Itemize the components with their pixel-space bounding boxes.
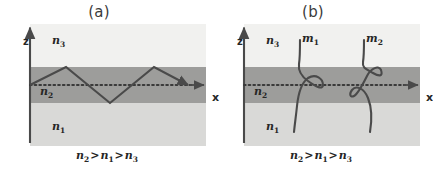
label-n1: n1 <box>52 120 65 135</box>
label-mode-m2: m2 <box>366 32 383 47</box>
panel-a-caption: n2>n1>n3 <box>0 149 214 164</box>
z-axis-label: z <box>237 36 243 47</box>
panel-b-title: (b) <box>214 3 428 21</box>
z-axis-label: z <box>23 36 29 47</box>
panel-b: (b) <box>214 0 428 170</box>
label-n3: n3 <box>266 34 279 49</box>
label-n2: n2 <box>254 85 267 100</box>
panel-a-title: (a) <box>0 3 214 21</box>
panel-a: (a) <box>0 0 214 170</box>
x-axis-label: x <box>426 91 433 104</box>
panel-b-plot: n3 n2 n1 m1 m2 z x <box>228 24 420 146</box>
panel-b-caption: n2>n1>n3 <box>214 149 428 164</box>
label-mode-m1: m1 <box>302 32 319 47</box>
mode-curve-m1 <box>294 40 323 132</box>
panel-a-plot: n3 n2 n1 z x <box>14 24 206 146</box>
label-n3: n3 <box>52 34 65 49</box>
label-n1: n1 <box>266 120 279 135</box>
label-n2: n2 <box>40 85 53 100</box>
